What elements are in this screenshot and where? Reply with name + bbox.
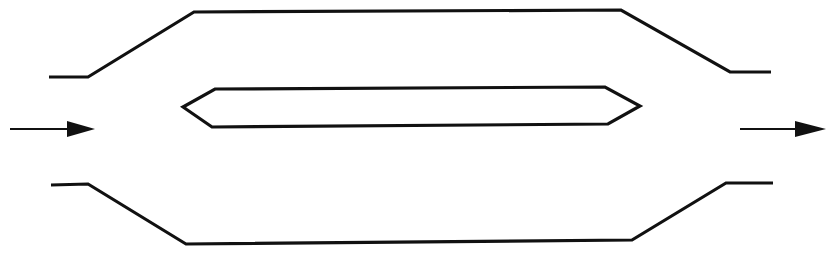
outlet-arrow-icon	[740, 121, 826, 137]
inlet-arrow-icon	[10, 121, 95, 137]
central-body-hexagon	[183, 87, 640, 127]
outer-top-wall	[49, 10, 771, 77]
splitter-diagram	[0, 0, 826, 263]
outer-bottom-wall	[51, 183, 773, 244]
